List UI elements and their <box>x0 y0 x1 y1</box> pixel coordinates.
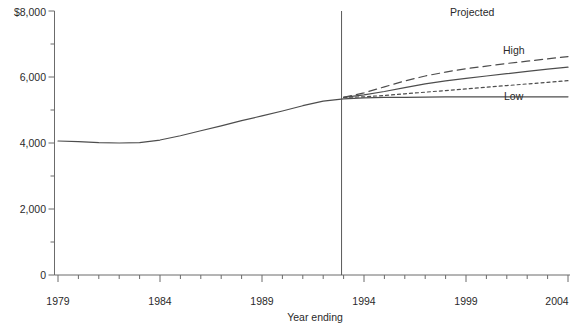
projected-label: Projected <box>450 6 494 18</box>
x-tick-label-1994: 1994 <box>341 296 387 307</box>
x-tick-label-1984: 1984 <box>137 296 183 307</box>
series-line-low <box>344 81 568 98</box>
x-tick-label-1979: 1979 <box>35 296 81 307</box>
y-tick-label-8000: $8,000 <box>0 7 46 18</box>
y-tick-label-6000: 6,000 <box>0 72 46 83</box>
x-tick-label-1989: 1989 <box>239 296 285 307</box>
y-tick-label-4000: 4,000 <box>0 138 46 149</box>
x-tick-label-1999: 1999 <box>443 296 489 307</box>
chart-plot-area <box>0 0 580 323</box>
x-axis-title: Year ending <box>255 311 375 323</box>
high-series-label: High <box>503 44 525 56</box>
x-tick-label-2004: 2004 <box>534 296 580 307</box>
series-line-actual <box>58 97 568 143</box>
y-tick-label-0: 0 <box>0 270 46 281</box>
y-tick-label-2000: 2,000 <box>0 204 46 215</box>
series-line-high <box>344 57 568 98</box>
chart-container: $8,000 6,000 4,000 2,000 0 1979 1984 198… <box>0 0 580 323</box>
low-series-label: Low <box>504 90 523 102</box>
series-line-projected-middle <box>344 67 568 97</box>
